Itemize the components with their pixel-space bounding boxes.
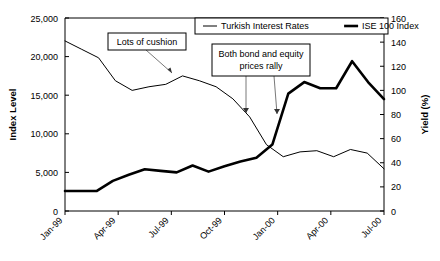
y2-axis-tick-label: 100 [391, 86, 406, 96]
y-axis-tick-label: 25,000 [30, 14, 58, 24]
series-line-ise-100-index [65, 61, 384, 191]
chart-container: 05,00010,00015,00020,00025,0000204060801… [0, 0, 440, 261]
x-axis-tick-label: Jan-99 [38, 215, 65, 242]
x-axis-tick-label: Apr-00 [304, 215, 330, 241]
x-axis-tick-label: Apr-99 [91, 215, 117, 241]
y-axis-tick-label: 5,000 [35, 168, 58, 178]
y-axis-tick-label: 20,000 [30, 52, 58, 62]
annotation-label: Both bond and equity [218, 49, 304, 59]
y-axis-tick-label: 0 [53, 207, 58, 217]
y-axis-tick-label: 15,000 [30, 91, 58, 101]
y-axis-title: Index Level [7, 89, 18, 141]
x-axis-tick-label: Jul-00 [359, 215, 383, 239]
annotation-label: prices rally [239, 61, 283, 71]
legend-label-ise-100-index: ISE 100 Index [362, 21, 419, 31]
annotation-arrow-head [274, 109, 280, 114]
y2-axis-tick-label: 40 [391, 158, 401, 168]
x-axis-tick-label: Jan-00 [251, 215, 278, 242]
legend-label-turkish-interest-rates: Turkish Interest Rates [221, 21, 309, 31]
y2-axis-tick-label: 0 [391, 207, 396, 217]
y-axis-tick-label: 10,000 [30, 129, 58, 139]
y2-axis-tick-label: 140 [391, 38, 406, 48]
annotation-arrow-line [274, 76, 277, 114]
x-axis-tick-label: Jul-99 [146, 215, 170, 239]
y2-axis-title: Yield (%) [419, 95, 430, 135]
y2-axis-tick-label: 20 [391, 182, 401, 192]
y2-axis-tick-label: 80 [391, 110, 401, 120]
y2-axis-tick-label: 120 [391, 62, 406, 72]
y2-axis-tick-label: 60 [391, 134, 401, 144]
x-axis-tick-label: Oct-99 [198, 215, 224, 241]
line-chart: 05,00010,00015,00020,00025,0000204060801… [0, 0, 440, 261]
annotation-arrow-head [168, 68, 173, 74]
annotation-label: Lots of cushion [117, 37, 178, 47]
